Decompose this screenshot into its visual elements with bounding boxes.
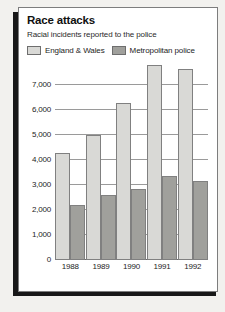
y-axis-tick-label: 6,000 [32,105,51,114]
bar-group-1991 [147,60,177,260]
bar-england-wales-1990 [116,103,131,261]
bar-metropolitan-police-1988 [70,205,85,260]
legend-item-england-wales: England & Wales [27,46,105,55]
x-axis-labels: 19881989199019911992 [55,262,208,280]
bar-group-1989 [86,60,116,260]
y-axis-tick-label: 2,000 [32,205,51,214]
plot-canvas: 7,0006,0005,0004,0003,0002,0001,0000 [55,60,208,260]
legend-label: England & Wales [45,46,105,55]
bar-metropolitan-police-1992 [193,181,208,260]
bar-england-wales-1988 [55,153,70,261]
bar-group-1988 [55,60,85,260]
x-axis-label-1992: 1992 [178,262,208,271]
legend-swatch-icon [112,46,126,55]
bar-groups [55,60,208,260]
bar-england-wales-1989 [86,135,101,260]
bar-group-1990 [116,60,146,260]
x-axis-label-1990: 1990 [116,262,146,271]
bar-england-wales-1992 [178,69,193,260]
plot-area: 7,0006,0005,0004,0003,0002,0001,0000 198… [26,60,212,282]
bar-metropolitan-police-1989 [101,195,116,260]
y-axis-tick-label: 5,000 [32,130,51,139]
bar-metropolitan-police-1990 [131,189,146,260]
chart-panel: Race attacks Racial incidents reported t… [18,7,218,292]
legend-item-metropolitan-police: Metropolitan police [112,46,195,55]
x-axis-label-1991: 1991 [147,262,177,271]
y-axis-tick-label: 7,000 [32,80,51,89]
y-axis-tick-label: 0 [47,255,51,264]
y-axis-tick-label: 3,000 [32,180,51,189]
x-axis-label-1989: 1989 [86,262,116,271]
screenshot-root: Race attacks Racial incidents reported t… [0,0,225,312]
legend-swatch-icon [27,46,41,55]
chart-legend: England & Wales Metropolitan police [27,46,210,55]
bar-group-1992 [178,60,208,260]
y-axis-tick-label: 1,000 [32,230,51,239]
chart-subtitle: Racial incidents reported to the police [27,30,210,40]
y-axis-tick-label: 4,000 [32,155,51,164]
bar-metropolitan-police-1991 [162,176,177,260]
bar-england-wales-1991 [147,65,162,260]
chart-title: Race attacks [27,14,210,27]
x-axis-label-1988: 1988 [55,262,85,271]
legend-label: Metropolitan police [130,46,195,55]
